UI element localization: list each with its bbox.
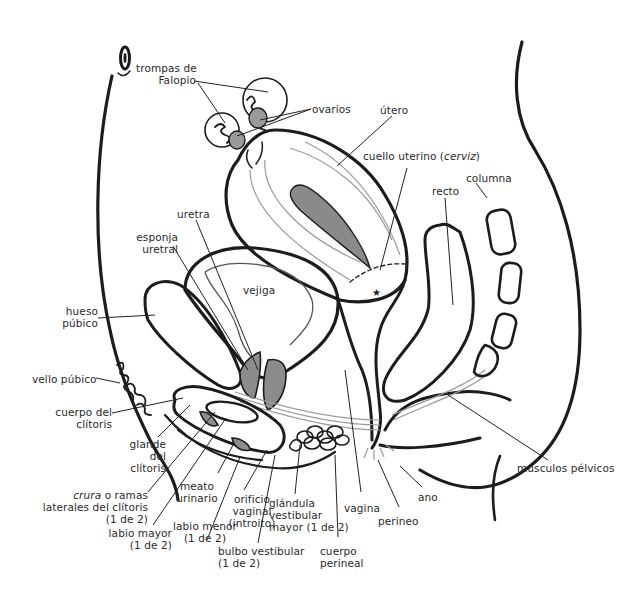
label-glans-clitoris: glande del clítoris — [118, 438, 166, 474]
navel-icon — [118, 47, 130, 76]
star-marker-icon: ★ — [372, 287, 381, 298]
label-line: cuerpo — [320, 545, 364, 557]
label-crura-italic: crura — [73, 489, 101, 501]
label-pubic-hair: vello púbico — [32, 373, 97, 385]
gluteal-fold — [493, 456, 500, 520]
label-perineal-body: cuerpo perineal — [320, 545, 364, 569]
label-spine: columna — [466, 172, 512, 184]
label-line: clítoris — [118, 462, 166, 474]
vestibular-gland — [297, 426, 349, 450]
label-line: (1 de 2) — [100, 539, 172, 551]
label-clitoral-body: cuerpo del clítoris — [40, 406, 112, 430]
label-line: esponja — [130, 231, 178, 243]
label-line: labio mayor — [100, 527, 172, 539]
label-pelvic-muscles: músculos pélvicos — [517, 462, 614, 474]
label-cervix: cuello uterino (cerviz) — [363, 150, 480, 162]
label-line: perineal — [320, 557, 364, 569]
label-line: o ramas — [101, 489, 148, 501]
label-line: clítoris — [40, 418, 112, 430]
label-line: (1 de 2) — [40, 513, 148, 525]
label-line: del — [118, 450, 166, 462]
label-ovaries: ovarios — [312, 103, 351, 115]
label-perineum: perineo — [378, 515, 419, 527]
label-line: laterales del clítoris — [40, 501, 148, 513]
label-fallopian-tubes: trompas de Falopio — [136, 62, 196, 86]
label-line: (1 de 2) — [218, 557, 304, 569]
rectum — [384, 224, 474, 401]
label-line: (1 de 2) — [165, 532, 245, 544]
label-urethra: uretra — [177, 208, 210, 220]
vertebral-column — [474, 208, 522, 376]
label-crura: crura o ramas laterales del clítoris (1 … — [40, 489, 148, 525]
label-line: púbico — [52, 317, 98, 329]
label-vagina: vagina — [344, 502, 380, 514]
label-line: meato — [168, 480, 226, 492]
label-uterus: útero — [380, 104, 408, 116]
label-line: vestibular — [269, 509, 349, 521]
label-line: urinario — [168, 492, 226, 504]
label-urinary-meatus: meato urinario — [168, 480, 226, 504]
label-line: Falopio — [136, 74, 196, 86]
label-line: glándula — [269, 497, 349, 509]
fallopian-tubes-and-ovaries — [205, 78, 287, 168]
anterior-body-outline — [98, 76, 178, 500]
label-vestibular-gland: glándula vestibular mayor (1 de 2) — [269, 497, 349, 533]
label-vestibular-bulb: bulbo vestibular (1 de 2) — [218, 545, 304, 569]
label-cervix-end: ) — [476, 150, 480, 162]
label-cervix-text: cuello uterino ( — [363, 150, 444, 162]
label-rectum: recto — [432, 185, 459, 197]
label-anus: ano — [418, 491, 438, 503]
label-line: trompas de — [136, 62, 196, 74]
posterior-body-outline — [420, 42, 580, 488]
label-line: mayor (1 de 2) — [269, 521, 349, 533]
label-pubic-bone: hueso púbico — [52, 305, 98, 329]
label-line: cuerpo del — [40, 406, 112, 418]
label-labia-majora: labio mayor (1 de 2) — [100, 527, 172, 551]
label-line: glande — [118, 438, 166, 450]
label-line: hueso — [52, 305, 98, 317]
label-cervix-italic: cerviz — [444, 150, 476, 162]
label-bladder: vejiga — [243, 284, 275, 296]
label-urethral-sponge: esponja uretral — [130, 231, 178, 255]
label-line: uretral — [130, 243, 178, 255]
perineum-marks — [364, 445, 394, 460]
label-line: bulbo vestibular — [218, 545, 304, 557]
